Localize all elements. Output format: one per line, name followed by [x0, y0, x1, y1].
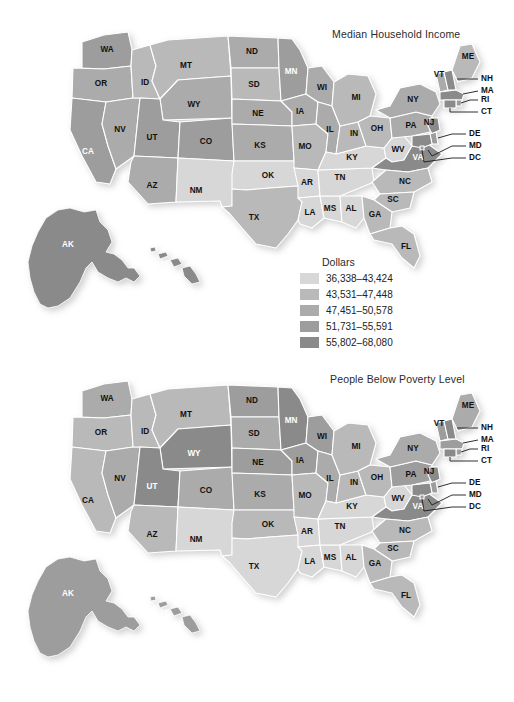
- svg-text:WI: WI: [317, 432, 327, 441]
- svg-text:NC: NC: [399, 526, 411, 535]
- svg-text:WY: WY: [187, 100, 201, 109]
- svg-text:LA: LA: [305, 557, 316, 566]
- svg-text:VA: VA: [413, 153, 424, 162]
- svg-text:KS: KS: [254, 490, 266, 499]
- svg-text:TN: TN: [335, 522, 346, 531]
- legend-label: 36,338–43,424: [326, 273, 393, 284]
- svg-text:MN: MN: [285, 416, 298, 425]
- svg-text:MO: MO: [298, 142, 312, 151]
- legend-swatch: [300, 273, 319, 284]
- svg-text:MO: MO: [298, 491, 312, 500]
- svg-text:NV: NV: [114, 125, 126, 134]
- svg-text:WA: WA: [100, 394, 113, 403]
- svg-text:NM: NM: [190, 535, 203, 544]
- svg-text:NC: NC: [399, 177, 411, 186]
- svg-text:WI: WI: [317, 83, 327, 92]
- svg-text:CT: CT: [481, 107, 492, 116]
- svg-text:CO: CO: [200, 486, 213, 495]
- legend-title-income: Dollars: [322, 256, 393, 268]
- svg-text:PA: PA: [406, 121, 417, 130]
- svg-text:AZ: AZ: [147, 530, 158, 539]
- svg-text:MN: MN: [285, 67, 298, 76]
- leader-CT: [450, 108, 478, 112]
- svg-text:IA: IA: [296, 456, 304, 465]
- svg-text:AR: AR: [301, 527, 313, 536]
- svg-text:HI: HI: [161, 259, 169, 268]
- leader-MA: [463, 440, 478, 443]
- state-FL: [370, 575, 420, 617]
- state-AZ: [128, 156, 178, 204]
- leader-DE: [438, 134, 466, 138]
- svg-text:MA: MA: [481, 435, 494, 444]
- legend-swatch: [300, 289, 319, 300]
- svg-text:CA: CA: [82, 147, 94, 156]
- svg-text:WA: WA: [100, 45, 113, 54]
- legend-row: 55,802–68,080: [300, 335, 393, 350]
- svg-text:MT: MT: [180, 61, 192, 70]
- legend-income: Dollars 36,338–43,424 43,531–47,448 47,4…: [300, 256, 393, 351]
- svg-text:UT: UT: [147, 482, 158, 491]
- state-TN: [318, 168, 374, 196]
- leader-MA: [463, 91, 478, 94]
- svg-text:OH: OH: [371, 473, 383, 482]
- svg-text:LA: LA: [305, 208, 316, 217]
- svg-text:MI: MI: [351, 442, 360, 451]
- legend-row: 43,531–47,448: [300, 287, 393, 302]
- svg-text:AL: AL: [346, 204, 357, 213]
- svg-text:GA: GA: [369, 559, 381, 568]
- svg-text:NY: NY: [407, 444, 419, 453]
- leader-RI: [461, 449, 478, 452]
- svg-text:FL: FL: [401, 242, 411, 251]
- svg-text:MD: MD: [469, 490, 482, 499]
- svg-text:OK: OK: [262, 171, 274, 180]
- svg-text:WV: WV: [391, 145, 405, 154]
- svg-text:NE: NE: [252, 109, 264, 118]
- svg-text:NH: NH: [481, 74, 493, 83]
- legend-swatch: [300, 321, 319, 332]
- state-TX: [222, 535, 302, 597]
- svg-text:NM: NM: [190, 186, 203, 195]
- legend-row: 51,731–55,591: [300, 319, 393, 334]
- leader-DE: [438, 483, 466, 487]
- map-panel-poverty: People Below Poverty Level: [0, 355, 514, 700]
- state-ME: [452, 44, 480, 82]
- svg-text:NJ: NJ: [424, 118, 434, 127]
- state-CT: [444, 449, 456, 457]
- us-map-income: WA OR CA NV ID MT WY UT AZ CO NM ND SD N…: [0, 6, 514, 351]
- lower48-group-income: [70, 32, 480, 268]
- svg-text:AR: AR: [301, 178, 313, 187]
- legend-label: 47,451–50,578: [326, 305, 393, 316]
- svg-text:MA: MA: [481, 86, 494, 95]
- svg-text:AL: AL: [346, 553, 357, 562]
- svg-text:FL: FL: [401, 591, 411, 600]
- us-map-poverty: WA OR CA NV ID MT WY UT AZ CO NM ND SD N…: [0, 355, 514, 700]
- state-MA: [440, 439, 464, 449]
- inset-AK: [28, 208, 140, 308]
- svg-text:IL: IL: [326, 125, 333, 134]
- inset-AK: [28, 557, 140, 657]
- svg-text:DE: DE: [469, 129, 481, 138]
- svg-text:OK: OK: [262, 520, 274, 529]
- svg-text:CA: CA: [82, 496, 94, 505]
- svg-text:VT: VT: [434, 70, 444, 79]
- svg-text:MT: MT: [180, 410, 192, 419]
- svg-text:KS: KS: [254, 141, 266, 150]
- lower48-group-poverty: [70, 381, 480, 617]
- svg-text:RI: RI: [481, 444, 489, 453]
- state-DC: [420, 146, 424, 150]
- svg-text:WY: WY: [187, 449, 201, 458]
- svg-text:SC: SC: [387, 544, 398, 553]
- svg-text:DC: DC: [469, 153, 481, 162]
- svg-text:KY: KY: [346, 153, 358, 162]
- inset-group-poverty: [28, 557, 200, 657]
- svg-text:AK: AK: [62, 589, 74, 598]
- legend-swatch: [300, 337, 319, 348]
- inset-HI: [150, 596, 200, 633]
- svg-text:IL: IL: [326, 474, 333, 483]
- svg-text:TX: TX: [249, 213, 260, 222]
- legend-row: 36,338–43,424: [300, 271, 393, 286]
- state-TX: [222, 186, 302, 248]
- legend-label: 55,802–68,080: [326, 337, 393, 348]
- legend-label: 51,731–55,591: [326, 321, 393, 332]
- svg-text:MI: MI: [351, 93, 360, 102]
